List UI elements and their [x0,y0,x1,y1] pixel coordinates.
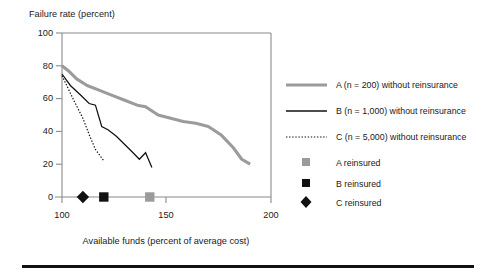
x-tick-label-100: 100 [54,210,69,220]
marker-a-reinsured [145,192,154,201]
y-tick-label-80: 80 [43,61,53,71]
y-tick-label-0: 0 [48,192,53,202]
marker-c-reinsured [77,191,89,203]
legend-label-c-reinsured: C reinsured [336,198,382,208]
y-tick-label-100: 100 [38,28,53,38]
y-tick-label-40: 40 [43,126,53,136]
failure-rate-line-chart: Failure rate (percent) Available funds (… [0,0,494,275]
legend-swatch-diamond-black [301,196,312,208]
x-tick-label-200: 200 [263,210,278,220]
legend-swatch-square-gray [302,158,310,166]
footer-rule [22,265,474,268]
series-line-b [62,74,152,167]
legend-label-b-without: B (n = 1,000) without reinsurance [336,106,466,116]
series-line-a [62,66,250,164]
legend-label-a-without: A (n = 200) without reinsurance [336,80,458,90]
legend-label-c-without: C (n = 5,000) without reinsurance [336,132,466,142]
chart-legend: A (n = 200) without reinsurance B (n = 1… [286,80,466,208]
y-tick-label-20: 20 [43,159,53,169]
legend-label-a-reinsured: A reinsured [336,158,381,168]
y-axis-title: Failure rate (percent) [29,9,115,19]
chart-figure: Failure rate (percent) Available funds (… [0,0,494,275]
marker-b-reinsured [99,192,108,201]
y-tick-label-60: 60 [43,93,53,103]
legend-swatch-square-black [302,179,310,187]
x-axis-title: Available funds (percent of average cost… [83,236,250,246]
x-tick-label-150: 150 [158,210,173,220]
legend-label-b-reinsured: B reinsured [336,179,381,189]
